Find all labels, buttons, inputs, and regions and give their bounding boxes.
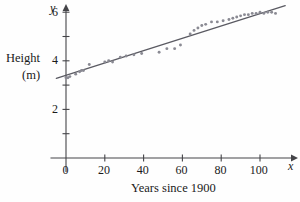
data-point bbox=[210, 20, 213, 23]
tick-marks-group bbox=[63, 12, 261, 161]
data-point bbox=[132, 53, 135, 56]
data-point bbox=[173, 47, 176, 50]
trend-line-group bbox=[56, 6, 285, 79]
data-point bbox=[196, 27, 199, 30]
data-point bbox=[239, 14, 242, 17]
data-point bbox=[255, 12, 258, 15]
pole-vault-scatter-chart: y x Height (m) Years since 1900 02040608… bbox=[0, 0, 300, 202]
data-point bbox=[270, 11, 273, 14]
data-point bbox=[111, 61, 114, 64]
data-point bbox=[140, 52, 143, 55]
data-point bbox=[68, 75, 71, 78]
trend-line bbox=[56, 6, 285, 79]
data-point bbox=[74, 73, 77, 76]
x-tick-label: 80 bbox=[214, 164, 226, 176]
data-point bbox=[243, 13, 246, 16]
data-point bbox=[82, 69, 85, 72]
x-axis-letter: x bbox=[288, 160, 293, 172]
y-tick-label: 4 bbox=[52, 54, 58, 66]
data-point bbox=[204, 23, 207, 26]
data-point bbox=[103, 61, 106, 64]
data-point bbox=[251, 12, 254, 15]
data-point bbox=[247, 13, 250, 16]
data-point bbox=[228, 18, 231, 21]
x-tick-label: 60 bbox=[176, 164, 188, 176]
data-point bbox=[88, 63, 91, 66]
x-tick-label: 100 bbox=[250, 164, 268, 176]
y-axis-arrow bbox=[63, 4, 70, 11]
data-point bbox=[262, 12, 265, 15]
data-point bbox=[189, 33, 192, 36]
data-points-group bbox=[65, 11, 277, 80]
data-point bbox=[222, 19, 225, 22]
data-point bbox=[179, 44, 182, 47]
data-point bbox=[274, 12, 277, 15]
data-point bbox=[158, 51, 161, 54]
data-point bbox=[165, 47, 168, 50]
data-point bbox=[107, 59, 110, 62]
x-tick-label: 40 bbox=[137, 164, 149, 176]
data-point bbox=[200, 24, 203, 27]
data-point bbox=[231, 17, 234, 20]
x-tick-label: 0 bbox=[63, 164, 69, 176]
data-point bbox=[119, 56, 122, 59]
data-point bbox=[216, 20, 219, 23]
data-point bbox=[259, 11, 262, 14]
y-tick-label: 2 bbox=[52, 103, 58, 115]
x-axis-title: Years since 1900 bbox=[131, 182, 216, 195]
data-point bbox=[266, 11, 269, 14]
data-point bbox=[235, 16, 238, 19]
y-axis-title-line2: (m) bbox=[22, 69, 40, 82]
data-point bbox=[193, 29, 196, 32]
y-axis-title-line1: Height bbox=[6, 52, 40, 65]
y-tick-label: 6 bbox=[52, 6, 58, 18]
data-point bbox=[125, 54, 128, 57]
x-tick-label: 20 bbox=[98, 164, 110, 176]
axes-group bbox=[50, 4, 298, 172]
